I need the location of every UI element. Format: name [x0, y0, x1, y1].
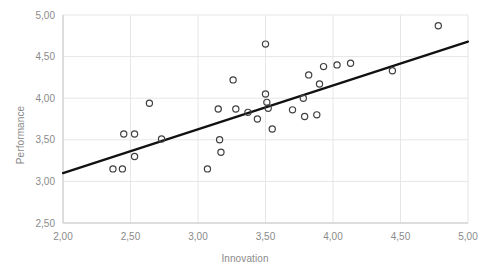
x-tick-label: 5,00: [458, 231, 478, 242]
data-point: [314, 112, 320, 118]
y-tick-label: 3,00: [36, 176, 56, 187]
data-point: [334, 62, 340, 68]
data-point: [264, 99, 270, 105]
data-point: [146, 100, 152, 106]
x-tick-labels: 2,002,503,003,504,004,505,00: [53, 231, 478, 242]
x-tick-label: 2,00: [53, 231, 73, 242]
scatter-chart: 2,002,503,003,504,004,505,00 2,503,003,5…: [0, 0, 490, 270]
data-point: [347, 60, 353, 66]
data-point: [320, 63, 326, 69]
x-tick-label: 4,00: [323, 231, 343, 242]
data-point: [435, 23, 441, 29]
y-tick-label: 5,00: [36, 10, 56, 21]
plot-canvas: 2,002,503,003,504,004,505,00 2,503,003,5…: [0, 0, 490, 270]
y-tick-label: 4,50: [36, 51, 56, 62]
data-point: [306, 72, 312, 78]
data-point: [302, 113, 308, 119]
x-tick-label: 3,00: [188, 231, 208, 242]
data-point: [131, 153, 137, 159]
y-tick-label: 3,50: [36, 134, 56, 145]
data-point: [269, 126, 275, 132]
data-point: [110, 166, 116, 172]
data-point: [230, 77, 236, 83]
x-tick-label: 2,50: [121, 231, 141, 242]
data-point: [389, 68, 395, 74]
y-tick-labels: 2,503,003,504,004,505,00: [36, 10, 56, 229]
data-point: [121, 131, 127, 137]
data-point: [131, 131, 137, 137]
data-point: [119, 166, 125, 172]
data-point: [204, 166, 210, 172]
data-point: [233, 106, 239, 112]
data-point: [215, 106, 221, 112]
y-axis-title: Performance: [15, 85, 26, 185]
data-point: [218, 149, 224, 155]
y-tick-label: 4,00: [36, 93, 56, 104]
x-tick-label: 3,50: [256, 231, 276, 242]
x-axis-title: Innovation: [0, 253, 490, 264]
data-point-group: [110, 23, 442, 172]
x-tick-label: 4,50: [391, 231, 411, 242]
data-point: [316, 81, 322, 87]
y-tick-label: 2,50: [36, 218, 56, 229]
grid-lines: [63, 15, 468, 223]
data-point: [289, 107, 295, 113]
data-point: [254, 116, 260, 122]
